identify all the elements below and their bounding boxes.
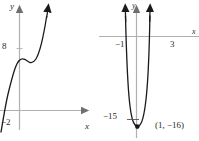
left-x-axis-label: x [85,122,89,131]
right-right-root-label: 3 [170,40,175,49]
right-y-intercept-label: −15 [103,112,117,121]
left-chart-svg [0,0,99,141]
left-y-intercept-label: 8 [2,42,7,51]
figure-canvas: y x 8 −2 [0,0,199,141]
left-x-intercept-label: −2 [1,118,11,127]
right-curve-parabola [126,16,150,126]
right-x-axis-label: x [192,28,196,36]
right-left-root-label: −1 [115,40,125,49]
chart-panel-right: y x −1 3 −15 (1, −16) [99,0,199,141]
left-curve-arrow [47,11,48,18]
left-curve-cubic [1,17,47,133]
right-vertex-dot [135,124,140,129]
left-y-axis-label: y [10,2,14,11]
right-vertex-label: (1, −16) [155,121,184,130]
right-y-axis-label: y [132,2,136,10]
chart-panel-left: y x 8 −2 [0,0,99,141]
